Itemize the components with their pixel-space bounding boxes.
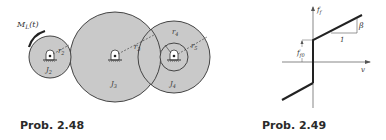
svg-text:ff: ff	[316, 6, 323, 16]
lower-branch	[282, 83, 313, 100]
svg-text:1: 1	[340, 36, 344, 44]
svg-text:β: β	[358, 21, 364, 30]
svg-text:ML(t): ML(t)	[16, 20, 39, 30]
svg-text:v: v	[361, 66, 365, 74]
gear-train-diagram: ML(t) r2	[16, 12, 210, 102]
svg-text:ff0: ff0	[296, 49, 305, 59]
upper-branch	[313, 15, 362, 83]
friction-graph: 1 β ff0 ff v	[282, 6, 371, 108]
caption-prob-2-48: Prob. 2.48	[20, 119, 84, 132]
caption-prob-2-49: Prob. 2.49	[262, 119, 326, 132]
